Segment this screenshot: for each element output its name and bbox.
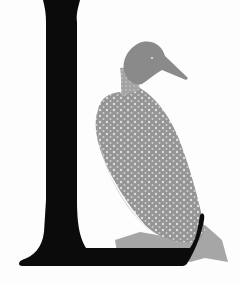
loon-and-letter-l-graphic [0, 0, 239, 286]
drop-cap-illustration [0, 0, 239, 286]
loon-bird [96, 42, 228, 262]
